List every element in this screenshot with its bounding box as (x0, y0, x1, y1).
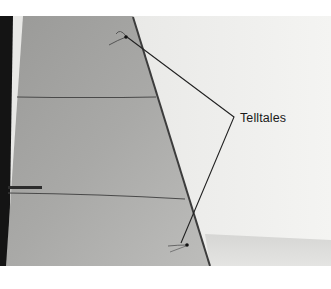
sail-photograph (0, 16, 331, 266)
batten (8, 186, 42, 189)
sail-scene (0, 16, 331, 266)
sail-seam (17, 97, 156, 98)
telltales-label: Telltales (240, 111, 286, 125)
